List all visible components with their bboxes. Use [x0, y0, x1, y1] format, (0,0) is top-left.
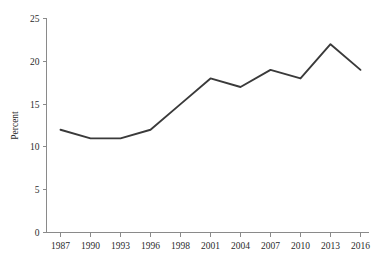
y-tick-label: 20 [30, 57, 40, 67]
data-series-line [61, 44, 361, 138]
y-tick-label: 5 [35, 185, 40, 195]
x-tick-label: 2010 [291, 241, 310, 251]
chart-figure: 0510152025 19871990199319961998200120042… [0, 0, 381, 260]
x-tick-label: 1998 [171, 241, 190, 251]
y-tick-label: 25 [30, 14, 40, 24]
x-tick-label: 1993 [111, 241, 130, 251]
y-tick-label: 10 [30, 142, 40, 152]
x-tick-label: 2013 [321, 241, 340, 251]
x-axis: 1987199019931996199820012004200720102013… [47, 233, 371, 251]
y-axis-title: Percent [10, 111, 20, 140]
y-axis: 0510152025 [30, 14, 47, 238]
x-tick-label: 2016 [351, 241, 370, 251]
line-chart: 0510152025 19871990199319961998200120042… [0, 0, 381, 260]
x-tick-label: 2007 [261, 241, 280, 251]
x-tick-label: 1987 [51, 241, 70, 251]
x-tick-label: 1996 [141, 241, 160, 251]
x-tick-label: 2004 [231, 241, 250, 251]
x-tick-label: 1990 [81, 241, 100, 251]
y-axis-title-label: Percent [10, 111, 20, 140]
plot-area [61, 44, 361, 138]
y-tick-label: 15 [30, 100, 40, 110]
x-tick-label: 2001 [201, 241, 220, 251]
y-tick-label: 0 [35, 228, 40, 238]
